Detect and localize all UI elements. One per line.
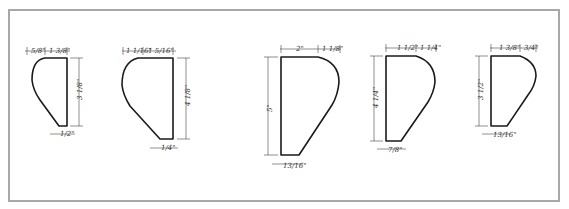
dim-top-left: 1 3/8" [499,44,520,52]
dim-bottom: 13/16" [493,131,516,139]
dim-top-right: 1 1/8" [322,45,343,53]
profile-5: 1 3/8" 3/4" 3 1/2" 13/16" [475,44,539,139]
dim-bottom: 7/8" [388,146,403,154]
dim-top-right: 1 5/16" [148,47,174,55]
dim-top-left: 1 1/2" [397,44,418,52]
dim-height: 3 1/2" [477,79,485,100]
dim-bottom: 13/16" [283,162,306,170]
dim-top-right: 1 1/4" [420,44,441,52]
dim-top-left: 2" [295,45,304,53]
dim-height: 4 1/4" [372,87,380,109]
dim-height: 4 1/8" [184,85,192,107]
dim-height: 3 1/8" [76,79,84,100]
dim-top-left: 5/8" [31,47,46,55]
dim-top-right: 1 3/8" [49,47,70,55]
profile-1: 5/8" 1 3/8" 3 1/8" 1/2" [25,47,84,138]
dim-bottom: 1/4" [161,144,176,152]
dim-height: 5" [266,104,274,112]
profile-4: 1 1/2" 1 1/4" 4 1/4" 7/8" [370,44,441,154]
dim-top-right: 3/4" [524,44,539,52]
dim-bottom: 1/2" [60,130,75,138]
profile-2: 1 1/16" 1 5/16" 4 1/8" 1/4" [122,47,192,152]
profiles-drawing: 5/8" 1 3/8" 3 1/8" 1/2" 1 1/16" 1 5/16" … [0,0,569,209]
profile-3: 2" 1 1/8" 5" 13/16" [264,45,343,170]
